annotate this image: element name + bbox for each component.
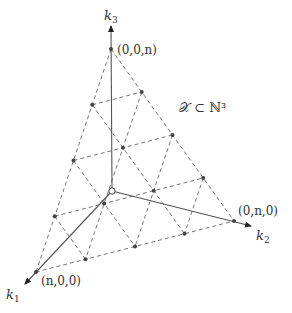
lattice-line (92, 92, 142, 105)
vertex-label-n00: (n,0,0) (41, 274, 81, 288)
lattice-point (84, 257, 88, 261)
lattice-point (90, 103, 94, 107)
k1-axis (25, 191, 112, 284)
lattice-line (55, 216, 86, 259)
k2-axis (112, 191, 251, 226)
set-label: 𝒳 ⊂ ℕ³ (179, 100, 226, 115)
lattice-point (72, 159, 76, 163)
lattice-line (86, 92, 142, 259)
lattice-dashed-lines (36, 49, 234, 272)
simplex-lattice-diagram: k3 k2 k1 (0,0,n) (0,n,0) (n,0,0) 𝒳 ⊂ ℕ³ (0, 0, 292, 313)
lattice-point (183, 232, 187, 236)
k2-axis-label: k2 (256, 228, 270, 245)
lattice-points (34, 47, 236, 274)
k1-axis-label: k1 (6, 287, 20, 304)
vertex-label-00n: (0,0,n) (117, 43, 157, 57)
lattice-point (201, 176, 205, 180)
lattice-point (102, 202, 106, 206)
lattice-point (171, 133, 175, 137)
lattice-point (34, 270, 38, 274)
vertex-label-0n0: (0,n,0) (238, 204, 278, 218)
lattice-point (53, 214, 57, 218)
lattice-point (109, 47, 113, 51)
lattice-point (152, 189, 156, 193)
lattice-point (232, 219, 236, 223)
lattice-line (185, 178, 204, 234)
k3-axis-label: k3 (104, 8, 118, 25)
lattice-line (92, 105, 184, 234)
lattice-line (55, 178, 204, 216)
lattice-point (133, 245, 137, 249)
lattice-point (121, 146, 125, 150)
lattice-point (140, 90, 144, 94)
origin-point (109, 188, 115, 194)
